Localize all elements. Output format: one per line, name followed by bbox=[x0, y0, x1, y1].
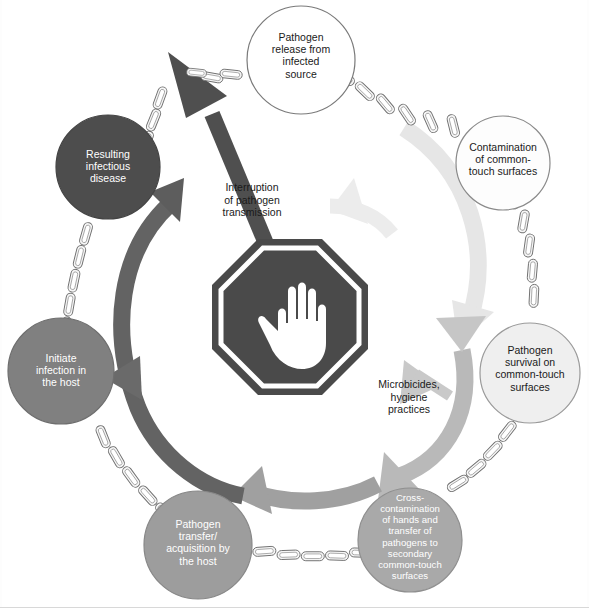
microbicides-annotation: Microbicides, hygiene practices bbox=[363, 378, 455, 416]
interruption-annotation: Interruption of pathogen transmission bbox=[200, 181, 304, 219]
node-cross-contamination bbox=[358, 488, 462, 592]
node-contamination-surfaces bbox=[456, 116, 550, 210]
node-initiate-infection bbox=[8, 318, 114, 424]
node-resulting-disease bbox=[56, 115, 160, 219]
diagram-canvas: Pathogen release from infected source Co… bbox=[0, 0, 589, 613]
chain-of-infection-svg bbox=[0, 0, 589, 613]
stop-hand-icon bbox=[212, 239, 368, 395]
bottom-cycle-arrow bbox=[232, 466, 378, 514]
node-pathogen-survival bbox=[480, 323, 580, 423]
node-pathogen-release bbox=[247, 6, 355, 114]
node-pathogen-transfer bbox=[144, 491, 252, 599]
bottom-divider bbox=[0, 607, 589, 613]
